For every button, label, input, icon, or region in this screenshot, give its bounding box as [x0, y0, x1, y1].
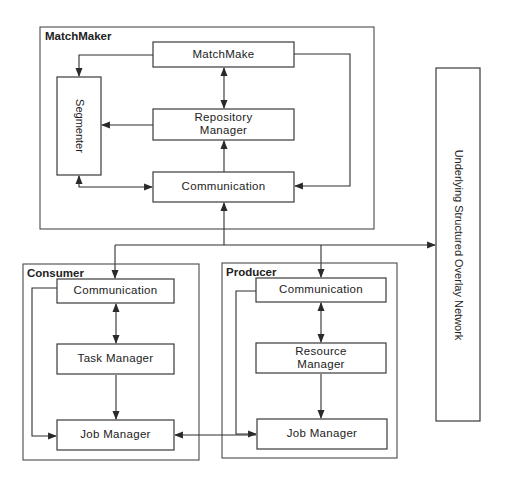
overlay-network-box: Underlying Structured Overlay Network	[436, 68, 480, 421]
consumer-communication-label: Communication	[74, 284, 158, 296]
consumer-task-manager-box: Task Manager	[57, 344, 174, 374]
producer-group-label: Producer	[226, 266, 277, 278]
producer-resource-manager-label-line1: Resource	[295, 345, 347, 357]
repository-manager-label-line1: Repository	[195, 111, 253, 123]
matchmake-to-segmenter-arrow	[79, 55, 153, 76]
producer-job-manager-label: Job Manager	[287, 427, 357, 439]
consumer-communication-box: Communication	[57, 279, 174, 303]
matchmake-to-communication-arrow	[294, 54, 350, 186]
consumer-group-label: Consumer	[27, 267, 84, 279]
repository-manager-box: Repository Manager	[153, 109, 294, 140]
consumer-comm-to-job-arrow	[32, 288, 57, 436]
matchmake-label: MatchMake	[192, 48, 254, 60]
consumer-job-manager-box: Job Manager	[57, 420, 174, 450]
matchmaker-group-label: MatchMaker	[45, 30, 112, 42]
architecture-diagram: MatchMaker MatchMake Segmenter Repositor…	[0, 0, 505, 483]
matchmake-box: MatchMake	[153, 42, 294, 67]
producer-job-manager-box: Job Manager	[257, 419, 387, 449]
segmenter-label: Segmenter	[74, 99, 86, 153]
overlay-network-label: Underlying Structured Overlay Network	[453, 150, 465, 341]
consumer-job-manager-label: Job Manager	[80, 428, 150, 440]
producer-communication-box: Communication	[256, 278, 386, 302]
segmenter-box: Segmenter	[57, 77, 101, 175]
repository-manager-label-line2: Manager	[200, 124, 248, 136]
producer-resource-manager-label-line2: Manager	[297, 358, 345, 370]
matchmaker-communication-label: Communication	[182, 180, 266, 192]
matchmaker-communication-box: Communication	[153, 172, 294, 202]
producer-comm-to-job-arrow	[236, 291, 256, 434]
producer-resource-manager-box: Resource Manager	[256, 343, 386, 373]
producer-communication-label: Communication	[279, 283, 363, 295]
segmenter-communication-arrow	[79, 176, 152, 187]
consumer-task-manager-label: Task Manager	[78, 352, 154, 364]
